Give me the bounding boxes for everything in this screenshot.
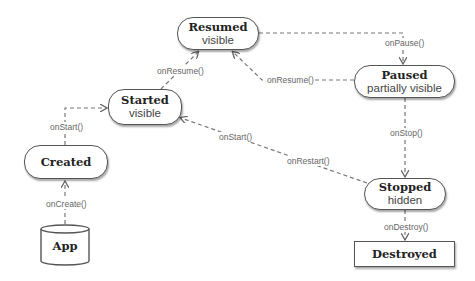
- state-paused: Paused partially visible: [354, 65, 455, 98]
- state-stopped-title: Stopped: [379, 181, 432, 194]
- arrow-stopped-to-started: [181, 118, 367, 183]
- state-destroyed-title: Destroyed: [372, 248, 437, 261]
- state-created: Created: [24, 145, 108, 179]
- state-resumed-title: Resumed: [188, 21, 247, 34]
- state-started-subtitle: visible: [129, 107, 161, 120]
- state-app-title: App: [52, 239, 77, 253]
- state-app: App: [40, 236, 90, 254]
- state-resumed: Resumed visible: [177, 17, 259, 50]
- state-paused-title: Paused: [382, 69, 428, 82]
- label-on-start-mid: onStart(): [218, 132, 253, 142]
- label-on-restart: onRestart(): [286, 156, 331, 166]
- state-started-title: Started: [121, 94, 169, 107]
- state-started: Started visible: [108, 89, 182, 125]
- state-destroyed: Destroyed: [354, 241, 455, 267]
- label-on-destroy: onDestroy(): [383, 222, 429, 232]
- state-paused-subtitle: partially visible: [367, 82, 442, 95]
- state-stopped: Stopped hidden: [364, 178, 446, 210]
- label-on-pause: onPause(): [384, 38, 425, 48]
- state-resumed-subtitle: visible: [202, 34, 234, 47]
- label-on-resume-left: onResume(): [156, 66, 205, 76]
- label-on-stop: onStop(): [389, 128, 424, 138]
- label-on-create: onCreate(): [45, 199, 88, 209]
- label-on-start-left: onStart(): [49, 122, 84, 132]
- state-created-title: Created: [41, 156, 92, 169]
- state-stopped-subtitle: hidden: [388, 194, 423, 207]
- label-on-resume-right: onResume(): [266, 75, 315, 85]
- arrow-resumed-to-paused: [259, 33, 403, 63]
